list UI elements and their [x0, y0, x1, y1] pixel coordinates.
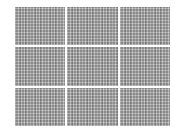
- panel-grid: [15, 7, 170, 126]
- panel-r1c1: [15, 7, 65, 45]
- panel-r3c2: [67, 88, 117, 126]
- panel-r2c3: [120, 47, 170, 85]
- panel-r1c2: [67, 7, 117, 45]
- panel-r2c1: [15, 47, 65, 85]
- panel-r3c3: [120, 88, 170, 126]
- panel-r3c1: [15, 88, 65, 126]
- panel-r1c3: [120, 7, 170, 45]
- panel-r2c2: [67, 47, 117, 85]
